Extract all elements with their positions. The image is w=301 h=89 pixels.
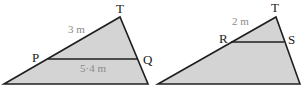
length-label-tr: 2 m [232, 15, 249, 27]
vertex-label-p: P [32, 50, 39, 65]
vertex-label-q: Q [143, 52, 153, 67]
length-label-tp: 3 m [68, 23, 85, 35]
right-triangle: T R S 2 m [158, 0, 300, 84]
vertex-label-t-left: T [116, 1, 124, 16]
left-triangle: T P Q 3 m 5·4 m [4, 1, 153, 84]
length-label-pq: 5·4 m [80, 62, 106, 74]
vertex-label-s: S [288, 32, 295, 47]
vertex-label-t-right: T [271, 0, 279, 15]
similar-triangles-diagram: T P Q 3 m 5·4 m T R S 2 m [0, 0, 301, 89]
vertex-label-r: R [219, 31, 228, 46]
right-triangle-shape [158, 17, 300, 84]
